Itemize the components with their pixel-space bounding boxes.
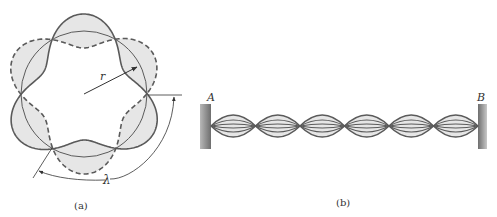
string-loop-fill — [434, 115, 479, 137]
caption-a: (a) — [74, 200, 88, 211]
wavelength-label: λ — [102, 173, 111, 187]
string-loop-fill — [300, 115, 345, 137]
wall-b — [478, 104, 487, 149]
string-loops — [211, 115, 478, 137]
end-label-a: A — [206, 91, 215, 104]
string-loop-fill — [211, 115, 256, 137]
panel-b-string-standing-wave: A B (b) — [200, 91, 487, 208]
end-label-b: B — [476, 91, 485, 104]
radius-label: r — [100, 70, 106, 83]
figure: r λ (a) A B (b) — [0, 0, 497, 217]
radius-arrow — [84, 67, 137, 94]
string-loop-fill — [256, 115, 301, 137]
wall-a — [200, 104, 211, 149]
string-loop-fill — [389, 115, 434, 137]
caption-b: (b) — [336, 197, 350, 208]
panel-a-circular-standing-wave: r λ (a) — [11, 14, 182, 211]
string-loop-fill — [345, 115, 390, 137]
wavelength-reference-line-left — [33, 148, 52, 178]
